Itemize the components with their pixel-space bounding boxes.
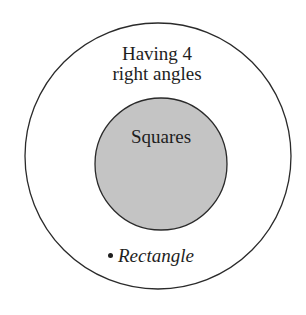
venn-diagram: Having 4 right angles Squares Rectangle (0, 0, 306, 315)
bullet-dot-icon (108, 253, 113, 258)
element-rectangle: Rectangle (108, 246, 194, 266)
outer-set-label-line1: Having 4 (112, 44, 201, 64)
outer-set-label-line2: right angles (112, 64, 201, 84)
inner-set-label: Squares (131, 127, 191, 147)
element-rectangle-label: Rectangle (118, 245, 194, 266)
outer-set-label: Having 4 right angles (112, 44, 201, 84)
inner-set-circle-squares (95, 98, 227, 230)
